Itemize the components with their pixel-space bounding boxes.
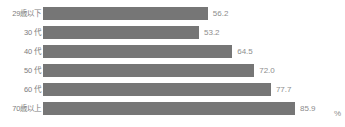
- bar: [43, 45, 232, 58]
- bar: [43, 83, 271, 96]
- category-label: 40 代: [0, 45, 43, 58]
- bar-track: 85.9: [43, 102, 345, 115]
- table-row: 29歳以下 56.2: [0, 7, 345, 20]
- table-row: 70歳以上 85.9: [0, 102, 345, 115]
- category-label: 30 代: [0, 26, 43, 39]
- value-label: 72.0: [259, 64, 275, 77]
- bar: [43, 7, 208, 20]
- value-label: 77.7: [276, 83, 292, 96]
- bar: [43, 64, 254, 77]
- bar-track: 72.0: [43, 64, 345, 77]
- bar-track: 64.5: [43, 45, 345, 58]
- bar-track: 53.2: [43, 26, 345, 39]
- horizontal-bar-chart: 29歳以下 56.2 30 代 53.2 40 代 64.5 50 代: [0, 0, 345, 127]
- unit-label: %: [334, 107, 341, 120]
- table-row: 40 代 64.5: [0, 45, 345, 58]
- chart-rows: 29歳以下 56.2 30 代 53.2 40 代 64.5 50 代: [0, 7, 345, 121]
- category-label: 70歳以上: [0, 102, 43, 115]
- category-label: 50 代: [0, 64, 43, 77]
- category-label: 29歳以下: [0, 7, 43, 20]
- value-label: 64.5: [237, 45, 253, 58]
- table-row: 60 代 77.7: [0, 83, 345, 96]
- bar: [43, 26, 199, 39]
- category-label: 60 代: [0, 83, 43, 96]
- value-label: 53.2: [204, 26, 220, 39]
- table-row: 50 代 72.0: [0, 64, 345, 77]
- bar-track: 77.7: [43, 83, 345, 96]
- value-label: 56.2: [213, 7, 229, 20]
- bar: [43, 102, 295, 115]
- value-label: 85.9: [300, 102, 316, 115]
- bar-track: 56.2: [43, 7, 345, 20]
- table-row: 30 代 53.2: [0, 26, 345, 39]
